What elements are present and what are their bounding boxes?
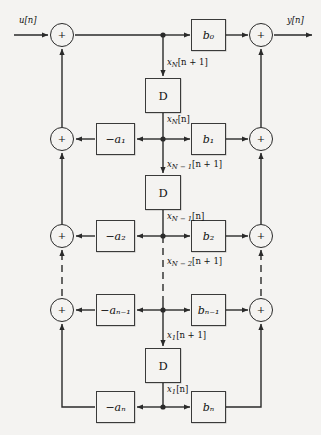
summer-right-row1[interactable]: + [249,23,273,47]
gain-minus-a2[interactable]: −a₂ [96,220,135,252]
wire-aN-to-left-column [62,324,95,407]
state-xN: xN[n] [167,115,190,125]
plus-symbol: + [257,305,265,315]
plus-symbol: + [58,231,66,241]
gain-b0[interactable]: b₀ [191,19,226,51]
plus-symbol: + [257,134,265,144]
gain-b1[interactable]: b₁ [191,123,226,155]
delay-block-3[interactable]: D [145,348,181,383]
delay-block-2[interactable]: D [145,175,181,210]
plus-symbol: + [257,30,265,40]
summer-right-row4[interactable]: + [249,298,273,322]
state-x1-next: x1[n + 1] [167,331,206,341]
output-label: y[n] [287,16,304,25]
summer-right-row2[interactable]: + [249,127,273,151]
state-xN-2-next: xN − 2[n + 1] [167,257,222,267]
gain-b-N[interactable]: bₙ [191,391,226,423]
state-x1: x1[n] [167,385,188,395]
plus-symbol: + [257,231,265,241]
summer-right-row3[interactable]: + [249,224,273,248]
block-diagram: u[n] y[n] + + + + + + + + D D D −a₁ −a₂ … [0,0,321,435]
summer-left-row2[interactable]: + [50,127,74,151]
delay-block-1[interactable]: D [145,78,181,113]
summer-left-row1[interactable]: + [50,23,74,47]
state-xN-next: xN[n + 1] [167,58,208,68]
plus-symbol: + [58,305,66,315]
summer-left-row4[interactable]: + [50,298,74,322]
gain-b2[interactable]: b₂ [191,220,226,252]
plus-symbol: + [58,134,66,144]
state-xN-1: xN − 1[n] [167,212,204,222]
summer-left-row3[interactable]: + [50,224,74,248]
gain-minus-a1[interactable]: −a₁ [96,123,135,155]
gain-minus-a-N-1[interactable]: −aₙ₋₁ [96,294,135,326]
plus-symbol: + [58,30,66,40]
input-label: u[n] [19,16,37,25]
gain-b-N-1[interactable]: bₙ₋₁ [191,294,226,326]
gain-minus-a-N[interactable]: −aₙ [96,391,135,423]
state-xN-1-next: xN − 1[n + 1] [167,160,222,170]
wire-bN-to-right-column [226,324,261,407]
